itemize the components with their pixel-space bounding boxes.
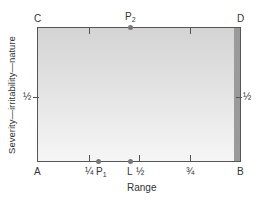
right-line-bd [240, 27, 241, 162]
top-tick-quarter [89, 28, 90, 34]
point-l [128, 159, 133, 164]
point-p1 [96, 159, 101, 164]
point-label-p2-name: P [125, 11, 132, 22]
y-tick-label-left-half: ½ [23, 92, 31, 102]
right-tick-half [236, 97, 242, 98]
x-tick-label-three-quarter: ¾ [186, 167, 194, 177]
top-tick-three-quarter [190, 28, 191, 34]
point-label-p1: P1 [96, 167, 107, 178]
left-tick-half [33, 97, 39, 98]
x-tick-label-half: ½ [136, 167, 144, 177]
y-axis-title: Severity—irritability—nature [7, 35, 17, 155]
corner-label-b: B [237, 167, 244, 177]
point-label-l: L [127, 167, 133, 177]
x-tick-label-quarter: ¼ [85, 167, 93, 177]
y-axis-line-ac [37, 27, 38, 162]
bottom-tick-half [139, 155, 140, 161]
point-label-p2-sub: 2 [132, 16, 136, 23]
bottom-tick-quarter [89, 155, 90, 161]
top-line-cd [37, 27, 241, 28]
x-axis-title: Range [127, 183, 156, 193]
corner-label-d: D [237, 14, 244, 24]
shaded-region [37, 28, 241, 162]
x-axis-line-ab [37, 161, 241, 162]
point-p2 [128, 25, 133, 30]
point-label-p2: P2 [125, 12, 136, 23]
y-tick-label-right-half: ½ [243, 92, 251, 102]
point-label-p1-sub: 1 [103, 171, 107, 178]
corner-label-c: C [34, 14, 41, 24]
corner-label-a: A [34, 167, 41, 177]
point-label-p1-name: P [96, 166, 103, 177]
bottom-tick-three-quarter [190, 155, 191, 161]
